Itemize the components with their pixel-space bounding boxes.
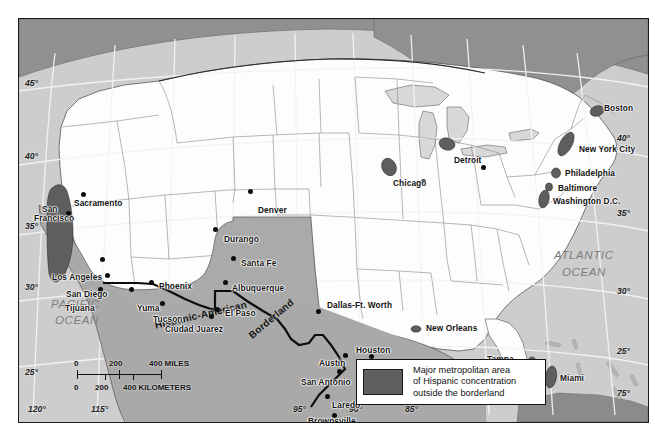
city-label-albuquerque: Albuquerque	[232, 284, 284, 292]
city-label-los-angeles: Los Angeles	[52, 273, 102, 281]
city-dot-albuquerque	[223, 280, 228, 285]
lat-label-35-right: 35°	[617, 209, 630, 218]
city-dot-san-antonio	[337, 369, 342, 374]
city-label-detroit: Detroit	[454, 156, 481, 164]
city-label-new-orleans: New Orleans	[426, 324, 477, 332]
city-dot-durango	[213, 227, 218, 232]
lon-label-95: 95°	[293, 405, 306, 414]
metro-new-orleans	[411, 326, 421, 332]
city-label-new-york-city: New York City	[579, 145, 635, 153]
scale-miles-mid: 200	[109, 359, 122, 368]
atlantic-ocean-label-line2: OCEAN	[562, 267, 606, 279]
scale-tick-0	[77, 370, 78, 379]
city-label-el-paso: El Paso	[225, 309, 256, 317]
city-label-houston: Houston	[356, 346, 390, 354]
scale-bar: 0 200 400 MILES 0 200 400 KILOMETERS	[61, 357, 181, 401]
scale-km-max: 400 KILOMETERS	[123, 383, 191, 392]
atlantic-ocean-label-line1: ATLANTIC	[554, 250, 614, 262]
scale-miles-zero: 0	[74, 359, 78, 368]
city-dot-denver	[248, 189, 253, 194]
scale-tick-200mi	[119, 370, 120, 379]
city-label-sacramento: Sacramento	[74, 199, 123, 207]
city-label-san-francisco-l2: Francisco	[34, 214, 74, 222]
city-label-denver: Denver	[258, 206, 287, 214]
metro-baltimore	[546, 183, 553, 191]
scale-tick-200km	[105, 374, 106, 380]
lat-label-30-right: 30°	[617, 287, 630, 296]
city-dot-phoenix	[149, 280, 154, 285]
lon-label-85: 85°	[405, 405, 418, 414]
lat-label-30-left: 30°	[25, 283, 38, 292]
lon-label-115: 115°	[91, 405, 108, 414]
lat-label-25-right: 25°	[617, 347, 630, 356]
map-legend: Major metropolitan area of Hispanic conc…	[356, 359, 546, 405]
lat-label-40-right: 40°	[617, 134, 630, 143]
city-label-san-diego: San Diego	[66, 290, 107, 298]
city-dot-laredo	[325, 394, 330, 399]
city-dot-yuma	[129, 287, 134, 292]
city-label-miami: Miami	[560, 374, 584, 382]
city-label-ciudad-juarez: Ciudad Juarez	[165, 325, 223, 333]
lon-label-120: 120°	[28, 405, 46, 414]
legend-line-3: outside the borderland	[413, 388, 516, 400]
scale-km-zero: 0	[74, 383, 78, 392]
city-dot-tucson	[160, 301, 165, 306]
scale-km-mid: 200	[95, 383, 108, 392]
lat-label-40-left: 40°	[25, 152, 38, 161]
metro-philadelphia	[552, 168, 561, 178]
city-label-phoenix: Phoenix	[159, 282, 192, 290]
city-dot-dallas-ft-worth	[316, 309, 321, 314]
city-label-tucson: Tucson	[153, 315, 183, 323]
pacific-ocean-label-line2: OCEAN	[55, 315, 99, 327]
city-label-boston: Boston	[604, 104, 633, 112]
legend-line-2: of Hispanic concentration	[413, 376, 516, 388]
city-dot-santa-fe	[231, 256, 236, 261]
scale-tick-400	[161, 370, 162, 379]
map-page: 45° 40° 35° 30° 25° 40° 35° 30° 25° 75° …	[0, 0, 655, 437]
legend-swatch-metro-hispanic	[363, 369, 403, 395]
lat-label-45-left: 45°	[25, 79, 38, 88]
city-dot-sacramento	[81, 192, 86, 197]
city-label-durango: Durango	[224, 235, 259, 243]
city-dot-el-paso	[215, 307, 220, 312]
city-label-santa-fe: Santa Fe	[241, 259, 276, 267]
city-label-brownsville: Brownsville	[308, 417, 356, 423]
lat-label-25-left: 25°	[25, 368, 38, 377]
city-dot-detroit	[481, 165, 486, 170]
city-label-san-antonio: San Antonio	[301, 378, 351, 386]
city-label-austin: Austin	[319, 359, 345, 367]
city-label-tijuana: Tijuana	[65, 304, 95, 312]
map-frame: 45° 40° 35° 30° 25° 40° 35° 30° 25° 75° …	[18, 18, 649, 423]
legend-text: Major metropolitan area of Hispanic conc…	[413, 365, 516, 400]
city-dot-los-angeles	[100, 257, 105, 262]
city-label-washington-dc: Washington D.C.	[553, 197, 621, 205]
legend-line-1: Major metropolitan area	[413, 365, 516, 377]
lat-label-35-left: 35°	[25, 222, 38, 231]
lon-label-75-right: 75°	[617, 389, 630, 398]
scale-tick-300km	[133, 374, 134, 380]
city-label-philadelphia: Philadelphia	[565, 169, 615, 177]
city-label-dallas-ft-worth: Dallas-Ft. Worth	[327, 301, 392, 309]
scale-miles-max: 400 MILES	[149, 359, 189, 368]
city-label-yuma: Yuma	[137, 304, 160, 312]
city-dot-san-diego	[105, 273, 110, 278]
city-label-chicago: Chicago	[393, 179, 426, 187]
city-label-baltimore: Baltimore	[558, 184, 597, 192]
city-dot-ciudad-juarez	[209, 314, 214, 319]
